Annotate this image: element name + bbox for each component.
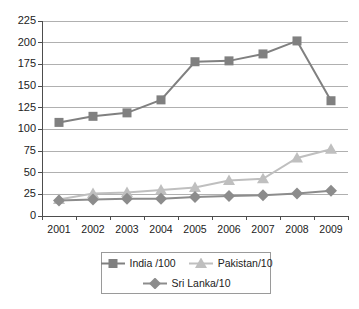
- data-point-marker: [325, 143, 337, 154]
- data-point-marker: [55, 118, 64, 127]
- y-axis-tick-label: 225: [2, 15, 36, 26]
- y-axis-tick-label: 0: [2, 210, 36, 221]
- data-point-marker: [191, 57, 200, 66]
- series-line: [59, 41, 331, 122]
- legend-row: India /100Pakistan/10: [102, 253, 270, 273]
- data-point-marker: [123, 108, 132, 117]
- series-india-100: [55, 36, 336, 126]
- legend-item-sri-lanka-10[interactable]: Sri Lanka/10: [142, 277, 231, 289]
- y-axis-tick-label: 25: [2, 188, 36, 199]
- y-axis-tick-label: 75: [2, 145, 36, 156]
- x-axis-tick-label: 2002: [76, 224, 110, 235]
- x-axis-tick-label: 2005: [178, 224, 212, 235]
- gridlines: [42, 21, 348, 194]
- legend-label: India /100: [130, 257, 176, 269]
- data-point-marker: [327, 96, 336, 105]
- x-axis-tick-label: 2004: [144, 224, 178, 235]
- series-layer: [53, 36, 337, 206]
- x-axis-tick-label: 2003: [110, 224, 144, 235]
- legend-label: Pakistan/10: [218, 257, 273, 269]
- y-axis-tick-label: 125: [2, 102, 36, 113]
- line-chart: 0255075100125150175200225 20012002200320…: [0, 0, 359, 309]
- legend-item-india-100[interactable]: India /100: [100, 257, 176, 269]
- data-point-marker: [293, 36, 302, 45]
- data-point-marker: [89, 112, 98, 121]
- data-point-marker: [291, 187, 303, 199]
- data-point-marker: [189, 191, 201, 203]
- legend-row: Sri Lanka/10: [102, 273, 270, 293]
- y-axis-tick-label: 200: [2, 37, 36, 48]
- x-axis-tick-label: 2008: [280, 224, 314, 235]
- x-axis-tick-label: 2009: [314, 224, 348, 235]
- x-axis-ticks: [42, 216, 348, 220]
- legend-item-pakistan-10[interactable]: Pakistan/10: [188, 257, 273, 269]
- x-axis-tick-label: 2007: [246, 224, 280, 235]
- diamond-marker-icon: [142, 278, 168, 289]
- data-point-marker: [53, 194, 65, 206]
- legend-label: Sri Lanka/10: [172, 277, 231, 289]
- data-point-marker: [259, 49, 268, 58]
- y-axis-tick-label: 175: [2, 58, 36, 69]
- y-axis-tick-label: 50: [2, 167, 36, 178]
- x-axis-tick-label: 2001: [42, 224, 76, 235]
- y-axis-tick-label: 100: [2, 123, 36, 134]
- triangle-marker-icon: [188, 258, 214, 269]
- chart-legend: India /100Pakistan/10Sri Lanka/10: [101, 252, 271, 294]
- x-axis-tick-label: 2006: [212, 224, 246, 235]
- data-point-marker: [225, 56, 234, 65]
- data-point-marker: [223, 190, 235, 202]
- data-point-marker: [257, 189, 269, 201]
- data-point-marker: [325, 185, 337, 197]
- y-axis-tick-label: 150: [2, 80, 36, 91]
- data-point-marker: [157, 95, 166, 104]
- square-marker-icon: [100, 258, 126, 269]
